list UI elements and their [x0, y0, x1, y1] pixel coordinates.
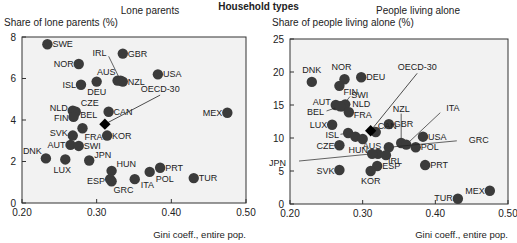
point-label-pol: POL [156, 174, 174, 184]
x-tick-label: 0.20 [12, 207, 32, 218]
point-label-aus: AUS [97, 67, 116, 77]
data-point-svk [334, 165, 344, 175]
chart-subtitle: People living alone [376, 5, 460, 16]
point-label-nor: NOR [54, 59, 75, 69]
oecd-label: OECD-30 [141, 84, 180, 94]
data-point-tur [453, 194, 463, 204]
data-point-pol [411, 142, 421, 152]
y-tick-label: 4 [10, 115, 16, 126]
point-label-dnk: DNK [302, 65, 321, 75]
point-label-prt: PRT [165, 163, 183, 173]
point-label-usa: USA [163, 69, 182, 79]
point-label-svk: SVK [50, 128, 68, 138]
data-point-swi [74, 141, 84, 151]
x-tick-label: 0.50 [236, 207, 256, 218]
point-label-lux: LUX [54, 165, 72, 175]
data-point-irl [115, 75, 125, 85]
data-point-lux [327, 120, 337, 130]
y-axis-label: Share of lone parents (%) [4, 17, 118, 28]
data-point-pol [144, 167, 154, 177]
data-point-kor [102, 130, 112, 140]
point-label-grc: GRC [469, 135, 490, 145]
point-label-lux: LUX [310, 120, 328, 130]
point-label-fra: FRA [354, 110, 372, 120]
oecd-label: OECD-30 [398, 62, 437, 72]
y-tick-label: 15 [273, 100, 285, 111]
x-axis-label: Gini coeff., entire pop. [153, 229, 246, 240]
data-point-mex [485, 186, 495, 196]
point-label-gbr: GBR [128, 49, 148, 59]
data-point-can [103, 107, 113, 117]
data-point-deu [356, 72, 366, 82]
point-label-mex: MEX [465, 186, 485, 196]
point-label-cze: CZE [316, 141, 334, 151]
data-point-mex [222, 108, 232, 118]
data-point-prt [420, 160, 430, 170]
point-label-bel: BEL [80, 110, 97, 120]
point-label-swi: SWI [84, 141, 101, 151]
data-point-kor [365, 166, 375, 176]
point-label-kor: KOR [361, 176, 381, 186]
data-point-svk [68, 130, 78, 140]
point-label-fin: FIN [54, 113, 69, 123]
point-label-pol: POL [421, 142, 439, 152]
x-tick-label: 0.30 [353, 208, 373, 219]
point-label-jpn: JPN [94, 150, 111, 160]
data-point-bel [335, 101, 345, 111]
point-label-bel: BEL [307, 107, 324, 117]
point-label-nld: NLD [50, 103, 69, 113]
point-label-jpn: JPN [269, 158, 286, 168]
y-tick-label: 10 [273, 133, 285, 144]
point-label-aut: AUT [48, 140, 67, 150]
point-label-can: CAN [378, 121, 397, 131]
y-tick-label: 8 [10, 32, 16, 43]
x-tick-label: 0.40 [426, 208, 446, 219]
point-label-nor: NOR [332, 62, 353, 72]
people-living-alone-chart: People living aloneShare of people livin… [258, 0, 517, 243]
point-label-dnk: DNK [23, 146, 42, 156]
y-tick-label: 25 [273, 34, 285, 45]
chart-subtitle: Lone parents [121, 5, 179, 16]
point-label-tur: TUR [434, 193, 453, 203]
point-label-isl: ISL [62, 80, 76, 90]
point-label-ita: ITA [141, 180, 154, 190]
point-label-hun: HUN [117, 159, 137, 169]
data-point-nor [74, 59, 84, 69]
point-label-usa: USA [428, 132, 447, 142]
data-point-dnk [307, 77, 317, 87]
point-label-gbr: GBR [394, 119, 414, 129]
point-label-grc: GRC [114, 185, 135, 195]
x-tick-label: 0.40 [162, 207, 182, 218]
data-point-fin [68, 112, 78, 122]
point-label-aut: AUT [313, 97, 332, 107]
point-label-deu: DEU [366, 72, 385, 82]
point-label-esp: ESP [87, 176, 105, 186]
point-label-svk: SVK [316, 166, 334, 176]
data-point-prt [155, 163, 165, 173]
data-point-swe [42, 39, 52, 49]
x-tick-label: 0.50 [498, 208, 517, 219]
point-label-kor: KOR [112, 131, 132, 141]
data-point-jpn [84, 155, 94, 165]
point-label-esp: ESP [382, 161, 400, 171]
data-point-isl [76, 80, 86, 90]
point-label-tur: TUR [199, 173, 218, 183]
point-label-deu: DEU [87, 87, 106, 97]
y-tick-label: 2 [10, 156, 16, 167]
x-tick-label: 0.30 [87, 207, 107, 218]
lone-parents-chart: Lone parentsShare of lone parents (%)024… [0, 0, 258, 243]
data-point-cze [334, 140, 344, 150]
x-tick-label: 0.20 [280, 208, 300, 219]
x-axis-label: Gini coeff., entire pop. [415, 229, 508, 240]
data-point-tur [189, 173, 199, 183]
data-point-ita [130, 174, 140, 184]
point-label-ita: ITA [446, 103, 459, 113]
data-point-deu [91, 76, 101, 86]
data-point-gbr [118, 48, 128, 58]
data-point-ita [401, 139, 411, 149]
point-label-can: CAN [114, 107, 133, 117]
point-label-prt: PRT [430, 160, 448, 170]
y-tick-label: 6 [10, 73, 16, 84]
point-label-nld: NLD [352, 99, 371, 109]
point-label-isl: ISL [326, 130, 340, 140]
